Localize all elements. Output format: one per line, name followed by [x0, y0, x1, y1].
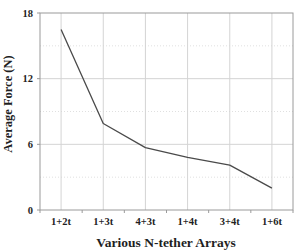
data-series-line: [61, 29, 272, 188]
line-chart: 0612181+2t1+3t4+3t1+4t3+4t1+6t Average F…: [0, 0, 305, 252]
x-tick-label: 1+3t: [93, 216, 113, 227]
x-tick-label: 1+2t: [51, 216, 71, 227]
y-axis-title: Average Force (N): [1, 55, 15, 152]
force-line: [61, 29, 272, 188]
x-tick-label: 1+6t: [262, 216, 282, 227]
x-axis-title: Various N-tether Arrays: [96, 235, 235, 250]
y-tick-label: 6: [28, 139, 33, 150]
chart-canvas: 0612181+2t1+3t4+3t1+4t3+4t1+6t Average F…: [0, 0, 305, 252]
x-tick-label: 3+4t: [220, 216, 240, 227]
x-tick-label: 4+3t: [135, 216, 155, 227]
gridlines: [40, 13, 293, 210]
axis-ticks: [37, 13, 293, 213]
y-tick-label: 12: [23, 73, 34, 84]
y-tick-label: 0: [28, 205, 33, 216]
x-tick-label: 1+4t: [178, 216, 198, 227]
y-tick-label: 18: [23, 8, 34, 19]
